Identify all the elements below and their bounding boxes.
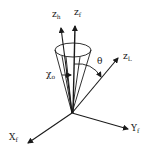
axis-y-f <box>72 113 128 129</box>
label-x-f: Xf <box>9 132 18 143</box>
label-z-L: zL <box>123 51 132 62</box>
label-theta: θ <box>97 56 102 66</box>
label-z-f: zf <box>74 7 82 18</box>
coordinate-frame-diagram: zh zf zL Yf Xf θ χo <box>0 0 153 155</box>
axis-x-f <box>28 113 72 143</box>
axis-z-f <box>73 26 75 113</box>
axis-z-h <box>61 28 72 113</box>
cone-rim <box>55 43 91 57</box>
label-y-f: Yf <box>130 123 140 134</box>
label-z-h: zh <box>52 9 61 20</box>
label-chi-o: χo <box>46 69 55 80</box>
cone-edge-left <box>55 50 72 113</box>
